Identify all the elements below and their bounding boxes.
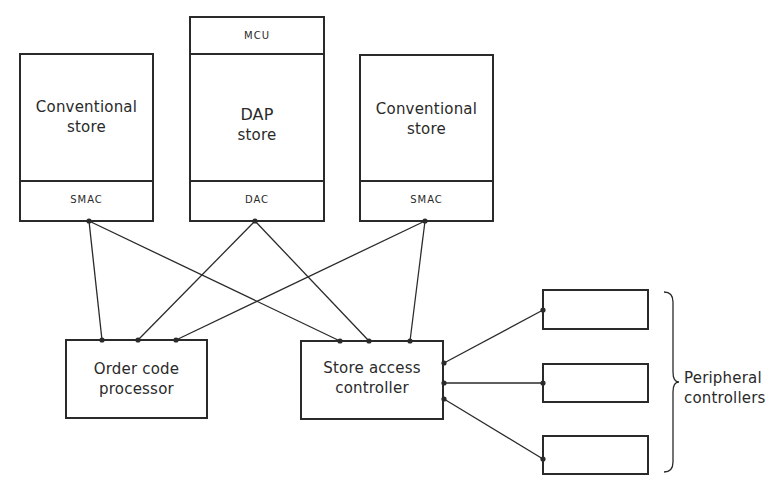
store-connections xyxy=(89,221,425,341)
mcu-label: MCU xyxy=(190,30,324,41)
right-store-label: Conventional store xyxy=(360,99,493,139)
dap-store-label: DAP store xyxy=(190,105,324,145)
diagram-canvas xyxy=(0,0,780,493)
peripheral-group-brace xyxy=(664,292,679,472)
left-store-label: Conventional store xyxy=(20,97,153,137)
right-smac-label: SMAC xyxy=(360,194,493,205)
order-code-processor-label: Order code processor xyxy=(66,359,207,399)
peripheral-controllers-label: Peripheral controllers xyxy=(684,368,780,408)
store-access-controller-label: Store access controller xyxy=(301,358,443,398)
peripheral-controller-1-box xyxy=(543,290,648,329)
peripheral-controller-3-box xyxy=(543,436,648,474)
peripheral-connections xyxy=(444,310,543,459)
dac-label: DAC xyxy=(190,194,324,205)
left-smac-label: SMAC xyxy=(20,194,153,205)
peripheral-controller-2-box xyxy=(543,364,648,402)
